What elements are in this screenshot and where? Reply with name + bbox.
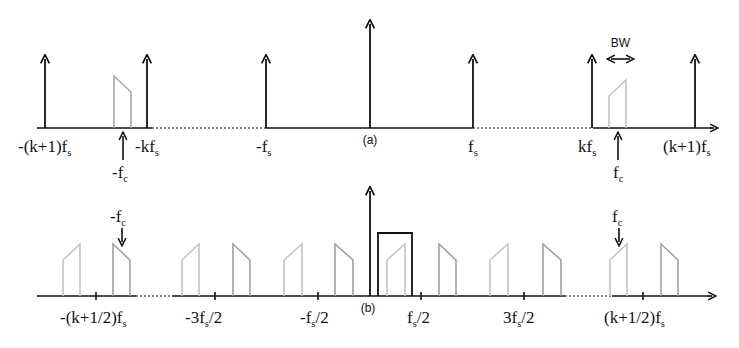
tick-label: -fs/2 [300, 308, 329, 329]
tick-label: -fc [112, 163, 128, 184]
tick-label: (k+1/2)fs [604, 308, 665, 329]
image-band-down [661, 244, 678, 296]
panel-a-label: (a) [363, 133, 378, 147]
tick-label: kfs [578, 137, 596, 158]
tick-label: -(k+1)fs [18, 137, 71, 158]
tick-label: fs [468, 137, 478, 158]
tick-label: 3fs/2 [503, 308, 535, 329]
band-neg-fc [114, 76, 131, 128]
tick-label: -kfs [135, 137, 159, 158]
image-band-up [387, 244, 405, 296]
panel-a-undersampled-spectrum: -(k+1)fs-kfs-fsfskfs(k+1)fs-fcfcBW(a) [18, 24, 714, 184]
tick-label: (k+1)fs [663, 137, 711, 158]
image-band-down [335, 244, 353, 296]
tick-label: -fs [256, 137, 271, 158]
image-band-up [182, 244, 199, 296]
image-band-up [610, 244, 627, 296]
bw-label: BW [611, 36, 631, 50]
image-band-up [284, 244, 302, 296]
panel-b-aliased-spectrum: -(k+1/2)fs-3fs/2-fs/2fs/23fs/2(k+1/2)fs-… [37, 191, 712, 329]
tick-label: -fc [110, 207, 126, 228]
image-band-up [490, 244, 508, 296]
image-band-down [113, 244, 130, 296]
panel-b-label: (b) [361, 301, 376, 315]
lowpass-filter-box [378, 233, 412, 296]
image-band-down [439, 244, 456, 296]
tick-label: -3fs/2 [185, 308, 222, 329]
tick-label: fs/2 [407, 308, 430, 329]
image-band-down [233, 244, 250, 296]
tick-label: fc [613, 163, 624, 184]
tick-label: -(k+1/2)fs [60, 308, 127, 329]
tick-label: fc [612, 207, 623, 228]
band-pos-fc [609, 80, 626, 128]
image-band-down [543, 244, 561, 296]
image-band-up [63, 244, 80, 296]
sampling-spectrum-diagram: -(k+1)fs-kfs-fsfskfs(k+1)fs-fcfcBW(a) -(… [0, 0, 739, 348]
